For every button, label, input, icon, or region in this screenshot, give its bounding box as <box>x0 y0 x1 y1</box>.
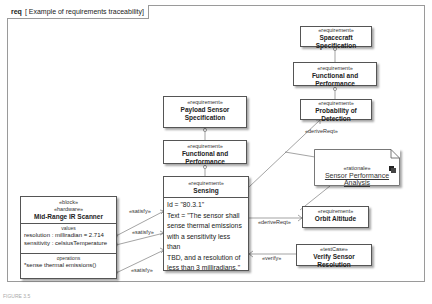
rationale-note[interactable]: «rationale» Sensor Performance Analysis <box>314 149 400 186</box>
requirement-name-line1: Payload Sensor <box>164 106 246 114</box>
requirement-text-line: sense thermal emissions <box>167 221 245 232</box>
requirement-orbit-altitude[interactable]: «requirement» Orbit Altitude <box>302 206 369 228</box>
frame-title: [ Example of requirements traceability] <box>25 8 144 15</box>
requirement-text-line: with a sensitivity less than <box>167 232 245 253</box>
requirement-name: Functional and Performance <box>294 72 376 88</box>
requirement-name: Probability of Detection <box>301 107 371 123</box>
requirement-functional-performance-top[interactable]: «requirement» Functional and Performance <box>293 62 377 86</box>
stereotype-label: «requirement» <box>164 99 246 106</box>
testcase-verify-sensor-resolution[interactable]: «testCase» Verify Sensor Resolution <box>296 244 372 266</box>
block-mid-range-ir-scanner[interactable]: «block» «hardware» Mid-Range IR Scanner … <box>20 196 117 279</box>
stereotype-label: «requirement» <box>301 27 371 34</box>
derive-reqt-label-orbit: «deriveReqt» <box>258 219 291 225</box>
frame-header: req[ Example of requirements traceabilit… <box>7 5 149 19</box>
operations-compartment: operations *sense thermal emissions() <box>21 253 116 270</box>
satisfy-label-2: «satisfy» <box>132 229 154 235</box>
satisfy-label-1: «satisfy» <box>129 208 151 214</box>
stereotype-label: «testCase» <box>297 246 371 253</box>
requirement-name-line2: Specification <box>164 114 246 122</box>
requirement-text-line: less than 3 milliradians." <box>167 263 245 274</box>
stereotype-label: «requirement» <box>164 143 246 150</box>
stereotype-label: «requirement» <box>164 180 248 187</box>
requirement-sensing[interactable]: «requirement» Sensing Id = "80.3.1" Text… <box>163 176 249 271</box>
stereotype-label: «requirement» <box>294 65 376 72</box>
requirement-id: Id = "80.3.1" <box>167 200 245 211</box>
requirement-name: Orbit Altitude <box>303 215 368 223</box>
requirement-name: Functional and Performance <box>164 150 246 166</box>
stereotype-label: «requirement» <box>301 100 371 107</box>
operation[interactable]: *sense thermal emissions() <box>24 261 113 269</box>
testcase-name: Verify Sensor Resolution <box>297 253 371 269</box>
requirement-text-compartment: Id = "80.3.1" Text = "The sensor shall s… <box>164 197 248 276</box>
requirement-text-line: TBD, and a resolution of <box>167 253 245 264</box>
requirement-text-line: Text = "The sensor shall <box>167 211 245 222</box>
stereotype-hardware: «hardware» <box>21 206 116 213</box>
stereotype-label: «rationale» <box>314 165 400 172</box>
frame-kind: req <box>11 8 22 15</box>
block-name: Mid-Range IR Scanner <box>21 213 116 221</box>
stereotype-label: «requirement» <box>303 208 368 215</box>
stereotype-block: «block» <box>21 199 116 206</box>
requirement-probability-of-detection[interactable]: «requirement» Probability of Detection <box>300 99 372 120</box>
satisfy-label-3: «satisfy» <box>131 267 153 273</box>
requirement-name: Sensing <box>164 187 248 195</box>
value-property[interactable]: sensitivity : celsiusTemperature <box>24 239 113 247</box>
value-property[interactable]: resolution : milliradian = 2.714 <box>24 231 113 239</box>
figure-caption: FIGURE 3.5 <box>3 293 30 299</box>
requirement-spacecraft-specification[interactable]: «requirement» Spacecraft Specification <box>300 26 372 47</box>
verify-label: «verify» <box>262 255 281 261</box>
requirement-payload-sensor-specification[interactable]: «requirement» Payload Sensor Specificati… <box>163 96 247 128</box>
values-compartment: values resolution : milliradian = 2.714 … <box>21 223 116 253</box>
rationale-link[interactable]: Sensor Performance Analysis <box>314 172 400 186</box>
requirement-name: Spacecraft Specification <box>301 34 371 50</box>
derive-reqt-label-prob: «deriveReqt» <box>305 128 338 134</box>
requirement-functional-performance-mid[interactable]: «requirement» Functional and Performance <box>163 140 247 164</box>
